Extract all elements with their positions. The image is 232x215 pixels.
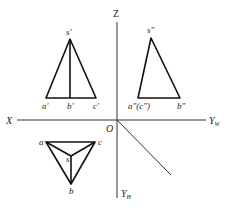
z-axis-label: Z xyxy=(113,8,119,19)
diagonal-45-line xyxy=(117,120,171,175)
label-b-prime: b' xyxy=(67,101,75,111)
projection-diagram: Z X O YW YH s' a' b' c' s" a"(c") b" a c… xyxy=(0,0,232,215)
side-view-triangle xyxy=(138,38,180,98)
side-view: s" a"(c") b" xyxy=(128,25,186,111)
label-a: a xyxy=(39,137,44,147)
yw-axis-label: YW xyxy=(209,115,221,127)
yh-axis-label: YH xyxy=(121,188,132,200)
top-view: a c s b xyxy=(39,137,102,196)
label-c-prime: c' xyxy=(93,101,100,111)
label-a-prime: a' xyxy=(42,101,50,111)
x-axis-label: X xyxy=(5,115,13,126)
label-s-prime: s' xyxy=(66,27,73,37)
front-view-triangle xyxy=(46,39,96,98)
label-a-c-double-prime: a"(c") xyxy=(128,101,150,111)
origin-label: O xyxy=(106,123,113,134)
label-c: c xyxy=(98,137,102,147)
label-s: s xyxy=(66,154,70,164)
label-s-double-prime: s" xyxy=(147,25,155,35)
front-view: s' a' b' c' xyxy=(42,27,100,111)
axes: Z X O YW YH xyxy=(5,8,221,200)
label-b-double-prime: b" xyxy=(177,101,186,111)
label-b: b xyxy=(69,186,74,196)
